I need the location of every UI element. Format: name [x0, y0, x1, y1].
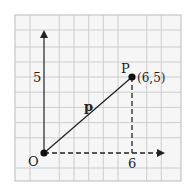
- origin-label: O: [28, 154, 39, 169]
- point-label: P: [121, 61, 130, 76]
- origin-point: [40, 149, 47, 156]
- x-tick-label: 6: [128, 156, 136, 171]
- grid: [15, 15, 181, 181]
- y-tick-label: 5: [33, 70, 41, 85]
- vector-label: p: [84, 99, 93, 114]
- point-coords-label: (6,5): [137, 71, 165, 85]
- vector-diagram: O P (6,5) p 6 5: [0, 0, 185, 194]
